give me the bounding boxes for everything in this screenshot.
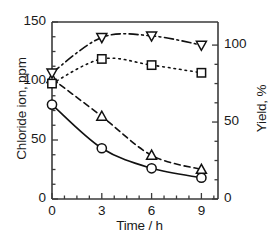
x-axis-tick-label: 0 (37, 203, 67, 218)
x-axis-tick-label: 6 (137, 203, 167, 218)
series-line-chloride-triangle-up (52, 79, 201, 170)
x-axis-tick-label: 9 (186, 203, 216, 218)
y-axis-right-ticks (212, 45, 218, 199)
y-axis-right-label: Yield, % (254, 44, 269, 174)
x-axis-label: Time / h (0, 218, 279, 233)
axis-frame (52, 22, 218, 199)
data-point-triangle-up (97, 111, 107, 120)
y-axis-right-tick-label: 0 (224, 190, 264, 205)
data-series-layer (47, 32, 206, 182)
x-axis-ticks (52, 193, 214, 199)
series-yield-square (48, 55, 206, 88)
data-point-square (197, 69, 205, 77)
data-point-circle (197, 173, 206, 182)
y-axis-left-label: Chloride ion, ppm (14, 44, 29, 174)
data-point-triangle-down (196, 41, 206, 50)
x-axis-tick-label: 3 (87, 203, 117, 218)
data-point-square (98, 55, 106, 63)
series-yield-triangle-down (47, 32, 206, 78)
chart-figure: Chloride ion, ppm Yield, % Time / h 5010… (0, 0, 279, 241)
y-axis-left-tick-label: 150 (6, 13, 46, 28)
data-point-triangle-up (147, 150, 157, 159)
data-point-square (147, 61, 155, 69)
data-point-circle (97, 144, 106, 153)
data-point-triangle-down (47, 69, 57, 78)
y-axis-left-tick-label: 50 (6, 131, 46, 146)
y-axis-left-ticks (52, 22, 58, 199)
y-axis-right-tick-label: 50 (224, 113, 264, 128)
series-line-yield-triangle-down (52, 34, 201, 73)
series-line-chloride-circle (52, 105, 201, 178)
data-point-circle (47, 100, 56, 109)
data-point-circle (147, 164, 156, 173)
series-chloride-circle (47, 100, 206, 182)
data-point-square (48, 79, 56, 87)
series-line-yield-square (52, 58, 201, 83)
y-axis-left-tick-label: 100 (6, 72, 46, 87)
y-axis-right-tick-label: 100 (224, 36, 264, 51)
